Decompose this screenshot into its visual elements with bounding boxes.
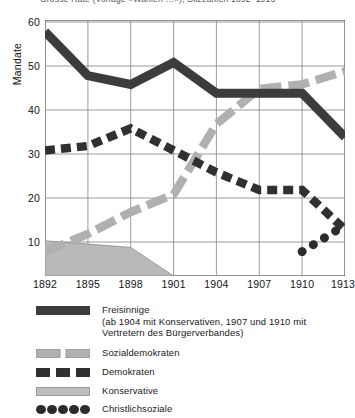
legend-swatch-christlichsoziale bbox=[36, 405, 90, 414]
plot-canvas bbox=[45, 20, 345, 276]
legend-swatch-freisinnige bbox=[36, 306, 90, 315]
chart-title-clipped: Grosse Räte (Vorlage «Wahlen …»), Sitzza… bbox=[40, 0, 350, 4]
legend-label-demokraten: Demokraten bbox=[102, 366, 155, 378]
y-tick-30: 30 bbox=[14, 148, 40, 160]
legend-note-line1: (ab 1904 mit Konservativen, 1907 und 191… bbox=[102, 316, 306, 328]
x-tick-1901: 1901 bbox=[162, 278, 186, 290]
legend-label-christlichsoziale: Christlichsoziale bbox=[102, 403, 172, 415]
x-tick-1907: 1907 bbox=[247, 278, 271, 290]
chart-svg bbox=[45, 20, 345, 276]
legend-label-freisinnige: Freisinnige (ab 1904 mit Konservativen, … bbox=[102, 304, 306, 339]
legend-label-sozialdemokraten: Sozialdemokraten bbox=[102, 347, 180, 359]
legend-note-line2: Vertretern des Bürgerverbandes) bbox=[102, 327, 306, 339]
x-tick-1910: 1910 bbox=[290, 278, 314, 290]
legend-swatch-sozialdemokraten bbox=[36, 349, 90, 358]
legend-label-freisinnige-name: Freisinnige bbox=[102, 304, 306, 316]
x-tick-1904: 1904 bbox=[204, 278, 228, 290]
x-tick-1892: 1892 bbox=[33, 278, 57, 290]
x-tick-1898: 1898 bbox=[119, 278, 143, 290]
chart-legend: Freisinnige (ab 1904 mit Konservativen, … bbox=[0, 300, 353, 418]
y-tick-10: 10 bbox=[14, 236, 40, 248]
x-tick-1913: 1913 bbox=[331, 278, 355, 290]
y-tick-20: 20 bbox=[14, 192, 40, 204]
y-tick-40: 40 bbox=[14, 104, 40, 116]
legend-swatch-demokraten bbox=[36, 368, 90, 377]
legend-swatch-konservative bbox=[36, 387, 90, 396]
y-axis-ticks: 10 20 30 40 50 60 bbox=[10, 14, 40, 276]
legend-label-konservative: Konservative bbox=[102, 385, 158, 397]
x-tick-1895: 1895 bbox=[76, 278, 100, 290]
chart-area: Mandate 10 20 30 40 50 60 bbox=[0, 14, 353, 286]
y-tick-60: 60 bbox=[14, 16, 40, 28]
y-tick-50: 50 bbox=[14, 60, 40, 72]
